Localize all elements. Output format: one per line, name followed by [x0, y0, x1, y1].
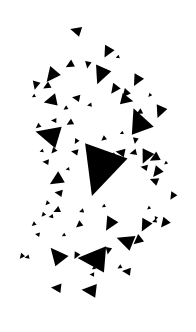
triangle-scatter-svg	[0, 0, 196, 332]
image-canvas: Triangle Scatter Composition Abstract bl…	[0, 0, 196, 332]
